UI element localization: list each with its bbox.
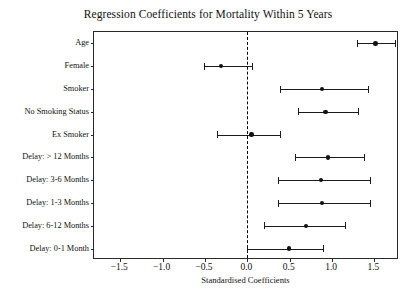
ci-cap-lower	[298, 108, 299, 115]
point-estimate-marker	[319, 178, 324, 183]
x-axis-tick-mark	[290, 258, 291, 262]
point-estimate-marker	[323, 110, 328, 115]
ci-cap-upper	[364, 154, 365, 161]
point-estimate-marker	[373, 41, 378, 46]
confidence-interval-bar	[278, 180, 370, 181]
ci-cap-lower	[217, 131, 218, 138]
ci-cap-lower	[204, 63, 205, 70]
y-axis-tick-mark	[91, 135, 95, 136]
ci-cap-upper	[358, 108, 359, 115]
ci-cap-lower	[278, 177, 279, 184]
y-axis-tick-mark	[91, 66, 95, 67]
y-axis-tick-mark	[91, 180, 95, 181]
plot-area	[93, 31, 398, 259]
y-axis-tick-mark	[91, 226, 95, 227]
x-axis-tick-label: −0.5	[195, 262, 212, 272]
point-estimate-marker	[287, 246, 292, 251]
x-axis-tick-mark	[247, 258, 248, 262]
ci-cap-upper	[323, 245, 324, 252]
point-estimate-marker	[304, 224, 309, 229]
y-axis-tick-label: No Smoking Status	[24, 106, 89, 115]
y-axis-tick-mark	[91, 112, 95, 113]
x-axis-tick-label: 0.5	[283, 262, 295, 272]
confidence-interval-bar	[247, 249, 322, 250]
ci-cap-lower	[264, 222, 265, 229]
y-axis-tick-label: Smoker	[63, 84, 89, 93]
y-axis-tick-label: Female	[65, 61, 89, 70]
ci-cap-lower	[280, 86, 281, 93]
forest-plot-figure: Regression Coefficients for Mortality Wi…	[0, 0, 416, 300]
ci-cap-upper	[368, 86, 369, 93]
confidence-interval-bar	[217, 135, 280, 136]
y-axis-tick-label: Ex Smoker	[52, 129, 89, 138]
ci-cap-upper	[280, 131, 281, 138]
ci-cap-upper	[395, 40, 396, 47]
confidence-interval-bar	[298, 112, 358, 113]
y-axis-tick-mark	[91, 43, 95, 44]
ci-cap-upper	[370, 177, 371, 184]
confidence-interval-bar	[278, 203, 370, 204]
point-estimate-marker	[320, 87, 325, 92]
y-axis-tick-label: Delay: 3-6 Months	[26, 175, 89, 184]
y-axis-tick-label: Delay: > 12 Months	[22, 152, 89, 161]
ci-cap-upper	[345, 222, 346, 229]
confidence-interval-bar	[280, 89, 367, 90]
x-axis-tick-mark	[205, 258, 206, 262]
y-axis-tick-label: Delay: 0-1 Month	[30, 243, 89, 252]
x-axis-tick-label: 1.0	[325, 262, 337, 272]
y-axis-tick-mark	[91, 249, 95, 250]
y-axis-tick-label: Age	[75, 38, 89, 47]
point-estimate-marker	[320, 201, 325, 206]
x-axis-label: Standardised Coefficients	[93, 275, 398, 285]
point-estimate-marker	[219, 64, 224, 69]
y-axis-tick-mark	[91, 89, 95, 90]
y-axis-tick-mark	[91, 203, 95, 204]
confidence-interval-bar	[204, 66, 252, 67]
y-axis-tick-mark	[91, 157, 95, 158]
ci-cap-upper	[370, 200, 371, 207]
point-estimate-marker	[326, 155, 331, 160]
plot-inner	[94, 32, 397, 258]
ci-cap-lower	[247, 245, 248, 252]
point-estimate-marker	[249, 132, 254, 137]
x-axis-tick-label: 0.0	[240, 262, 252, 272]
y-axis-tick-labels: AgeFemaleSmokerNo Smoking StatusEx Smoke…	[0, 0, 89, 300]
x-axis-tick-label: −1.5	[111, 262, 128, 272]
ci-cap-lower	[278, 200, 279, 207]
x-axis-tick-mark	[163, 258, 164, 262]
y-axis-tick-label: Delay: 6-12 Months	[22, 220, 89, 229]
x-axis-tick-mark	[374, 258, 375, 262]
ci-cap-lower	[295, 154, 296, 161]
x-axis-tick-mark	[120, 258, 121, 262]
x-axis-tick-label: 1.5	[367, 262, 379, 272]
ci-cap-upper	[252, 63, 253, 70]
y-axis-tick-label: Delay: 1-3 Months	[26, 198, 89, 207]
ci-cap-lower	[357, 40, 358, 47]
x-axis-tick-mark	[332, 258, 333, 262]
x-axis-tick-label: −1.0	[153, 262, 170, 272]
